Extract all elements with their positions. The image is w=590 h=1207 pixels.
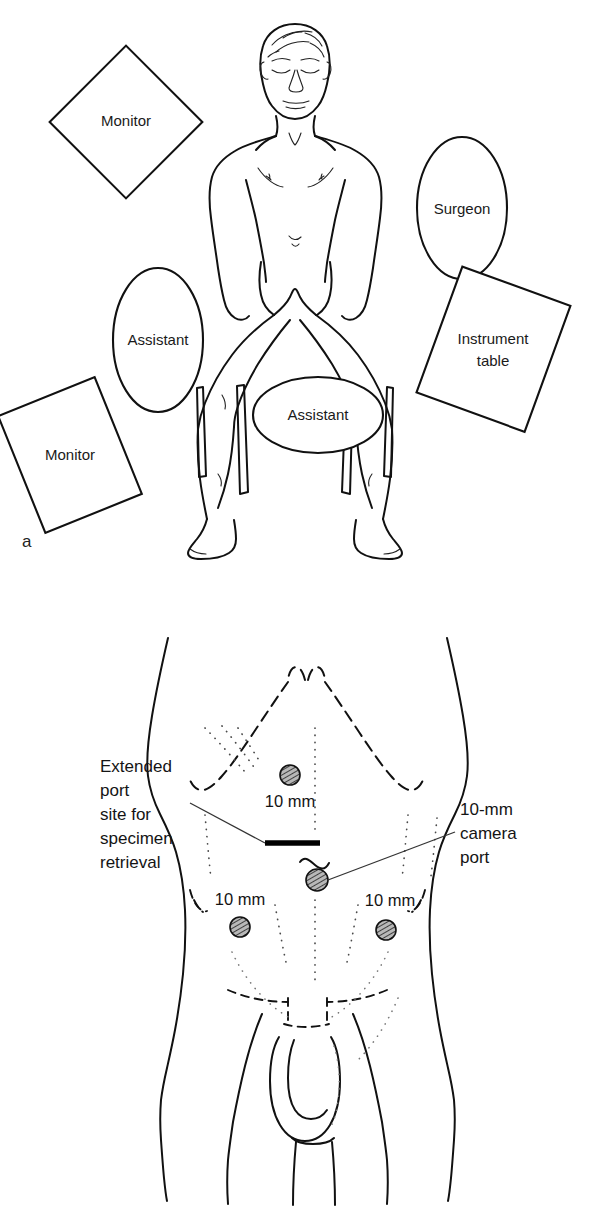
eyebrow-right xyxy=(301,59,319,61)
instrument-table-label-line-2: table xyxy=(477,352,510,369)
monitor-bottom-left-label: Monitor xyxy=(45,446,95,463)
penis-outline xyxy=(288,1040,327,1119)
extended-port-line-4: specimen xyxy=(100,829,173,848)
monitor-top-left-label: Monitor xyxy=(101,112,151,129)
xiphoid-notch-left xyxy=(288,667,305,680)
port-upper-midline-circle[interactable] xyxy=(280,765,300,785)
dotted-scrotal-right xyxy=(358,998,398,1060)
dotted-inguinal-right xyxy=(330,952,388,1018)
instrument-table-shape[interactable] xyxy=(417,267,571,432)
dotted-lateral-right xyxy=(402,815,408,879)
role-assistant-foot[interactable]: Assistant xyxy=(253,377,383,453)
camera-port-line-2: camera xyxy=(460,824,517,843)
abdomen-figure xyxy=(147,638,468,1205)
leader-camera-port xyxy=(328,832,455,880)
role-assistant-left[interactable]: Assistant xyxy=(113,268,203,412)
hip-right xyxy=(317,262,332,315)
role-instrument-table[interactable]: Instrument table xyxy=(417,267,571,432)
pectoral-crease-left xyxy=(258,168,283,187)
leg-support-outer-right xyxy=(384,387,393,477)
port-camera-circle[interactable] xyxy=(306,869,328,891)
camera-port-line-3: port xyxy=(460,848,490,867)
thigh-gap-right xyxy=(332,1142,335,1205)
camera-port-line-1: 10-mm xyxy=(460,800,513,819)
hair-line xyxy=(268,51,279,57)
role-surgeon[interactable]: Surgeon xyxy=(417,137,507,279)
role-monitor-bottom-left[interactable]: Monitor xyxy=(0,377,142,533)
eyebrow-left xyxy=(272,59,290,61)
shin-crease-right xyxy=(369,474,372,486)
xiphoid-notch-right xyxy=(308,667,325,680)
annotation-extended-port: Extended port site for specimen retrieva… xyxy=(100,757,173,872)
hair-line xyxy=(276,41,309,52)
sternal-notch xyxy=(289,133,301,145)
foot-left xyxy=(188,519,236,559)
leg-support-outer-left xyxy=(197,387,206,477)
perineum xyxy=(274,289,316,315)
inguinal-line-right xyxy=(327,990,387,1002)
annotation-camera-port: 10-mm camera port xyxy=(460,800,517,867)
inner-thigh-left xyxy=(227,1014,262,1204)
panel-a-operating-room-setup: Monitor Monitor Surgeon Assistant Assist… xyxy=(0,0,590,600)
extended-port-line-2: port xyxy=(100,781,130,800)
chin-crease xyxy=(286,107,305,109)
pubic-line-bottom xyxy=(284,1024,329,1027)
dotted-marking-left-2 xyxy=(222,726,256,770)
leader-extended-port xyxy=(190,803,265,843)
costal-margin-left xyxy=(190,682,288,790)
hair-line xyxy=(272,32,302,45)
eye-left-closed xyxy=(272,70,290,73)
surgeon-label: Surgeon xyxy=(434,200,491,217)
inguinal-line-left xyxy=(228,990,288,1002)
dotted-lateral-left xyxy=(205,815,211,879)
umbilicus xyxy=(289,236,301,240)
inner-thigh-right xyxy=(353,1014,388,1204)
body-outline-left xyxy=(147,638,185,1201)
port-lower-right-of-image[interactable]: 10 mm xyxy=(365,891,415,940)
foot-right xyxy=(354,519,402,559)
hip-left xyxy=(260,262,275,315)
port-camera-umbilical[interactable] xyxy=(306,869,328,891)
assistant-foot-label: Assistant xyxy=(288,406,350,423)
extended-port-line-3: site for xyxy=(100,805,151,824)
nipple-right-detail xyxy=(321,174,322,179)
extended-port-line-1: Extended xyxy=(100,757,172,776)
port-lower-left-of-image[interactable]: 10 mm xyxy=(215,890,265,937)
thigh-gap-left xyxy=(293,1142,296,1205)
dotted-oblique-right xyxy=(346,905,358,967)
dotted-inguinal-left xyxy=(232,952,290,1018)
body-outline-right xyxy=(430,638,468,1201)
nose xyxy=(289,70,303,92)
mouth xyxy=(283,101,309,103)
neck-left xyxy=(276,116,278,136)
iliac-crest-left-inner xyxy=(194,900,203,912)
calf-left-inner xyxy=(218,427,234,508)
role-monitor-top-left[interactable]: Monitor xyxy=(50,46,203,199)
nipple-left-detail xyxy=(269,174,270,179)
eye-right-closed xyxy=(301,70,319,73)
assistant-left-label: Assistant xyxy=(128,331,190,348)
foot-right-detail xyxy=(384,549,400,554)
port-lower-left-label: 10 mm xyxy=(215,890,265,908)
panel-b-illustration: 10 mm 10 mm 10 mm xyxy=(0,600,590,1207)
iliac-crest-left xyxy=(190,890,207,911)
port-lower-left-circle[interactable] xyxy=(230,917,250,937)
arm-outer-right xyxy=(315,136,381,320)
port-upper-midline[interactable]: 10 mm xyxy=(265,765,315,810)
knee-crease-left xyxy=(222,395,225,409)
umbilicus-marker xyxy=(300,859,329,869)
instrument-table-label-line-1: Instrument xyxy=(458,330,530,347)
foot-left-detail xyxy=(190,549,206,554)
shin-crease-left xyxy=(218,474,221,486)
panel-a-illustration: Monitor Monitor Surgeon Assistant Assist… xyxy=(0,0,590,600)
scrotum-outline xyxy=(270,1037,340,1141)
dotted-marking-left-1 xyxy=(205,728,245,772)
arm-inner-right xyxy=(325,180,345,282)
abdomen-crease xyxy=(292,244,299,246)
dotted-oblique-left xyxy=(275,905,287,967)
neck-right xyxy=(314,116,316,136)
extended-port-line-5: retrieval xyxy=(100,853,160,872)
dotted-marking-left-3 xyxy=(238,728,260,762)
panel-b-port-placement: 10 mm 10 mm 10 mm xyxy=(0,600,590,1207)
port-lower-right-circle[interactable] xyxy=(376,920,396,940)
